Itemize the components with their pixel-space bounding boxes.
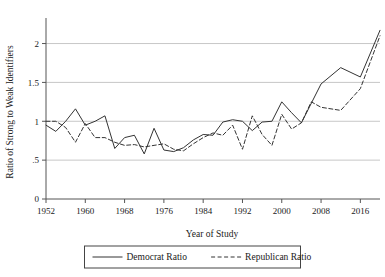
y-axis-label: Ratio of Strong to Weak Identifiers	[5, 45, 15, 179]
chart-figure: 0.511.52 1952196019681976198419922000200…	[0, 0, 385, 277]
y-axis-ticks: 0.511.52	[28, 39, 46, 204]
x-tick-label: 1984	[194, 206, 213, 216]
x-tick-label: 1976	[155, 206, 174, 216]
legend-label-1: Democrat Ratio	[127, 252, 188, 262]
y-tick-label: 2	[35, 39, 40, 49]
x-axis-label: Year of Study	[186, 229, 239, 239]
chart-legend: Democrat RatioRepublican Ratio	[85, 246, 312, 268]
x-tick-label: 2000	[273, 206, 292, 216]
x-axis-ticks: 195219601968197619841992200020082016	[37, 199, 370, 216]
x-tick-label: 1968	[116, 206, 135, 216]
y-tick-label: 0	[35, 194, 40, 204]
y-tick-label: .5	[32, 155, 39, 165]
series-line-1	[46, 30, 380, 154]
legend-label-2: Republican Ratio	[245, 252, 311, 262]
gridlines	[46, 44, 380, 161]
x-tick-label: 1992	[233, 206, 251, 216]
x-tick-label: 1952	[37, 206, 55, 216]
series-line-2	[46, 36, 380, 151]
y-tick-label: 1.5	[28, 78, 40, 88]
x-tick-label: 2016	[351, 206, 370, 216]
x-tick-label: 1960	[76, 206, 95, 216]
y-tick-label: 1	[35, 117, 40, 127]
x-tick-label: 2008	[312, 206, 331, 216]
line-chart: 0.511.52 1952196019681976198419922000200…	[0, 0, 385, 277]
data-series	[46, 30, 380, 154]
